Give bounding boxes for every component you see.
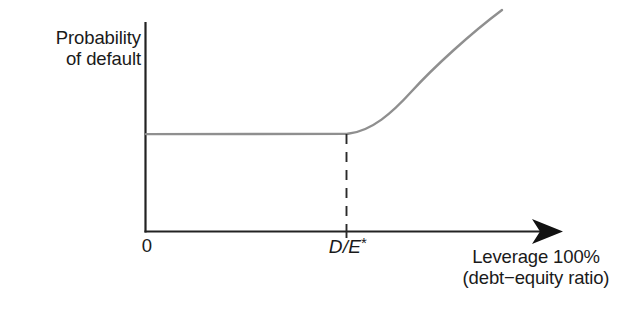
x-axis-tick-label-threshold: D/E* xyxy=(302,235,394,257)
x-axis-label-line-2: (debt−equity ratio) xyxy=(455,268,617,289)
threshold-label-superscript: * xyxy=(361,234,367,251)
y-axis-label: Probabilityof default xyxy=(0,28,141,69)
probability-of-default-chart: Probabilityof default 0 D/E* Leverage 10… xyxy=(0,0,617,315)
x-axis-label: Leverage 100%(debt−equity ratio) xyxy=(455,247,617,288)
threshold-label-base: D/E xyxy=(329,236,361,257)
y-axis-label-line-1: Probability xyxy=(56,27,141,48)
rising-segment-curve xyxy=(348,10,502,134)
y-axis-label-line-2: of default xyxy=(0,49,141,70)
x-axis-tick-label-origin: 0 xyxy=(128,236,166,257)
x-axis-label-line-1: Leverage 100% xyxy=(472,246,600,267)
